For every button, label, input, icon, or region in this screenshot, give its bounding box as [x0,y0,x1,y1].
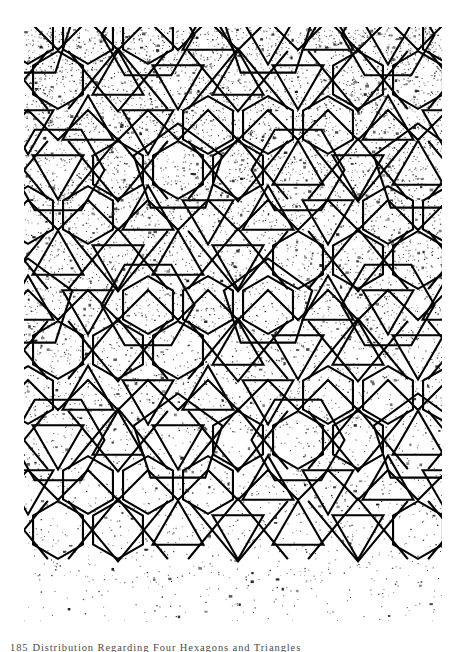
caption-number: 185 [10,642,28,652]
geometric-pattern-svg [24,27,442,622]
pattern-plate [24,27,442,622]
scanned-page: 185Distribution Regarding Four Hexagons … [0,0,465,652]
caption-text: Distribution Regarding Four Hexagons and… [32,642,301,652]
plate-caption: 185Distribution Regarding Four Hexagons … [10,641,460,652]
